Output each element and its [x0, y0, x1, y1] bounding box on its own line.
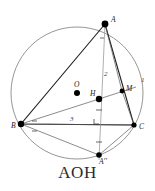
point-dot-M: [120, 89, 125, 94]
point-label-A: A: [110, 15, 116, 24]
segment-label-2: 2: [104, 70, 108, 78]
point-dot-A: [102, 21, 109, 28]
line-b-c-base: [21, 124, 134, 125]
chord-c-a-double-prime: [99, 125, 134, 155]
point-dot-C: [131, 122, 136, 127]
point-label-B: B: [11, 121, 16, 130]
triangle-abc: [21, 24, 134, 125]
segment-label-3: 3: [69, 115, 74, 123]
point-dot-B: [18, 121, 24, 127]
altitude-line-a: [99, 24, 105, 160]
segment-label-1: 1: [141, 76, 145, 84]
geometry-figure: A B C O H M A'' 2 1 3 AOH: [0, 0, 155, 191]
point-label-O: O: [74, 80, 80, 89]
point-dot-O: [74, 90, 80, 96]
line-b-a-double-prime: [21, 124, 99, 155]
point-label-H: H: [89, 89, 96, 98]
point-label-C: C: [139, 122, 145, 131]
point-label-M: M: [125, 84, 133, 93]
point-dot-H: [96, 96, 102, 102]
figure-caption: AOH: [0, 163, 155, 183]
right-angle-mark: [94, 119, 99, 124]
